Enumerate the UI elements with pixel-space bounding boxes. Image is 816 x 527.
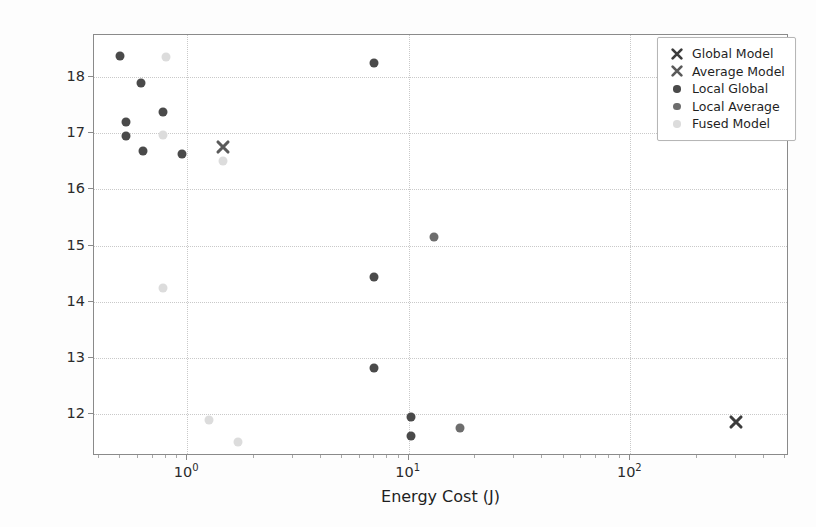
legend-item[interactable]: Local Global (666, 80, 785, 98)
y-tick-mark (88, 301, 93, 302)
chart-legend: Global ModelAverage ModelLocal GlobalLoc… (657, 37, 796, 141)
y-tick-mark (88, 413, 93, 414)
data-point-marker (137, 78, 146, 87)
legend-item[interactable]: Fused Model (666, 115, 785, 133)
scatter-chart-figure: Root Mean Square Error (RMSE) Energy Cos… (0, 0, 816, 527)
x-marker-icon (728, 414, 744, 430)
x-tick-label: 101 (395, 462, 420, 480)
data-point-marker (178, 150, 187, 159)
legend-item-label: Average Model (692, 64, 785, 79)
y-gridline (94, 302, 787, 303)
data-point-marker (138, 147, 147, 156)
data-point-marker (370, 363, 379, 372)
legend-item-label: Local Average (692, 99, 780, 114)
data-point-marker (370, 272, 379, 281)
x-minor-tick-mark (398, 455, 399, 458)
legend-item-label: Local Global (692, 81, 768, 96)
x-minor-tick-mark (784, 455, 785, 458)
x-minor-tick-mark (292, 455, 293, 458)
x-minor-tick-mark (735, 455, 736, 458)
x-tick-mark (186, 455, 187, 460)
x-minor-tick-mark (386, 455, 387, 458)
x-minor-tick-mark (137, 455, 138, 458)
x-marker-icon (666, 47, 688, 61)
legend-item[interactable]: Local Average (666, 98, 785, 116)
y-tick-mark (88, 76, 93, 77)
y-tick-label: 14 (25, 293, 85, 309)
data-point-marker (159, 283, 168, 292)
data-point-marker (234, 437, 243, 446)
x-minor-tick-mark (563, 455, 564, 458)
legend-item[interactable]: Global Model (666, 45, 785, 63)
legend-item-label: Global Model (692, 46, 773, 61)
y-tick-label: 12 (25, 405, 85, 421)
x-gridline (187, 35, 188, 454)
data-point-marker (406, 412, 415, 421)
x-gridline (630, 35, 631, 454)
dot-marker-icon (666, 85, 688, 93)
legend-item[interactable]: Average Model (666, 63, 785, 81)
data-point-marker (429, 233, 438, 242)
data-point-marker (122, 132, 131, 141)
data-point-marker (455, 423, 464, 432)
x-marker-icon (666, 64, 688, 78)
x-minor-tick-mark (619, 455, 620, 458)
y-gridline (94, 246, 787, 247)
x-minor-tick-mark (608, 455, 609, 458)
y-gridline (94, 414, 787, 415)
x-tick-label: 100 (174, 462, 199, 480)
x-minor-tick-mark (580, 455, 581, 458)
x-minor-tick-mark (98, 455, 99, 458)
x-minor-tick-mark (176, 455, 177, 458)
x-minor-tick-mark (320, 455, 321, 458)
legend-item-label: Fused Model (692, 116, 770, 131)
y-tick-mark (88, 357, 93, 358)
data-point-marker (204, 415, 213, 424)
x-minor-tick-mark (763, 455, 764, 458)
y-tick-label: 17 (25, 124, 85, 140)
y-tick-mark (88, 245, 93, 246)
dot-marker-icon (666, 120, 688, 128)
x-minor-tick-mark (513, 455, 514, 458)
y-tick-label: 15 (25, 237, 85, 253)
x-minor-tick-mark (373, 455, 374, 458)
y-gridline (94, 358, 787, 359)
data-point-marker (122, 118, 131, 127)
data-point-marker (218, 157, 227, 166)
x-axis-label: Energy Cost (J) (93, 487, 788, 506)
y-tick-label: 18 (25, 68, 85, 84)
x-tick-mark (408, 455, 409, 460)
x-minor-tick-mark (696, 455, 697, 458)
x-minor-tick-mark (165, 455, 166, 458)
x-tick-mark (629, 455, 630, 460)
dot-marker-icon (666, 103, 688, 111)
x-minor-tick-mark (119, 455, 120, 458)
y-tick-label: 13 (25, 349, 85, 365)
data-point-marker (116, 52, 125, 61)
x-minor-tick-mark (152, 455, 153, 458)
x-minor-tick-mark (253, 455, 254, 458)
x-minor-tick-mark (474, 455, 475, 458)
data-point-marker (161, 53, 170, 62)
x-minor-tick-mark (359, 455, 360, 458)
y-tick-mark (88, 188, 93, 189)
x-minor-tick-mark (341, 455, 342, 458)
x-tick-label: 102 (617, 462, 642, 480)
y-tick-mark (88, 132, 93, 133)
y-tick-label: 16 (25, 180, 85, 196)
x-minor-tick-mark (595, 455, 596, 458)
data-point-marker (406, 432, 415, 441)
data-point-marker (159, 130, 168, 139)
y-gridline (94, 189, 787, 190)
x-gridline (409, 35, 410, 454)
x-marker-icon (215, 139, 231, 155)
x-minor-tick-mark (541, 455, 542, 458)
data-point-marker (159, 108, 168, 117)
data-point-marker (370, 59, 379, 68)
